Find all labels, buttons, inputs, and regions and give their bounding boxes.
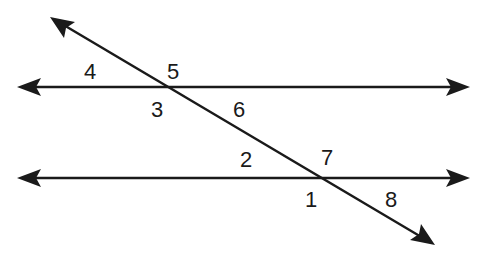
arrowhead-transversal-top-icon — [50, 17, 75, 38]
lines-layer — [0, 0, 481, 267]
diagram-canvas: 4 5 3 6 2 7 1 8 — [0, 0, 481, 267]
transversal-line — [62, 24, 423, 238]
angle-label-8: 8 — [385, 189, 397, 211]
angle-label-6: 6 — [233, 99, 245, 121]
angle-label-5: 5 — [167, 61, 179, 83]
angle-label-7: 7 — [321, 147, 333, 169]
arrowhead-transversal-bottom-icon — [410, 224, 435, 245]
angle-label-1: 1 — [305, 189, 317, 211]
angle-label-4: 4 — [84, 61, 96, 83]
angle-label-3: 3 — [151, 99, 163, 121]
angle-label-2: 2 — [240, 149, 252, 171]
